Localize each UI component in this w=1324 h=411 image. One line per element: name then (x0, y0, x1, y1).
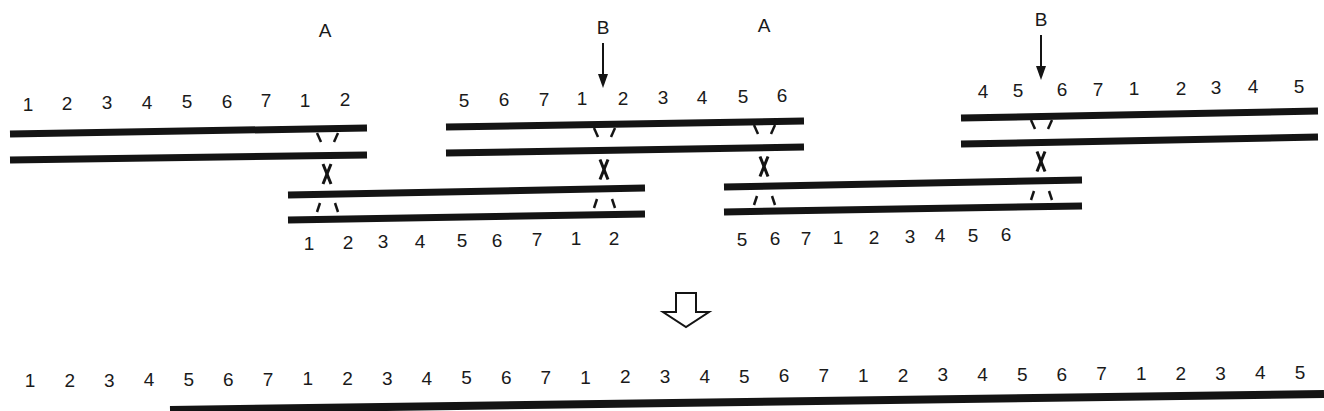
site-labels: ABAB (319, 9, 1048, 41)
strand-line (446, 121, 804, 127)
repeat-unit-label: 2 (1176, 78, 1187, 99)
repeat-unit-label: 3 (658, 87, 669, 108)
repeat-unit-label: 7 (263, 369, 274, 390)
strand-line (961, 137, 1318, 144)
repeat-unit-label: 2 (64, 370, 75, 391)
repeat-unit-label: 1 (25, 370, 36, 391)
repeat-unit-label: 5 (738, 86, 749, 107)
repeat-unit-label: 4 (935, 225, 946, 246)
repeat-unit-label: 1 (580, 367, 591, 388)
repeat-unit-label: 4 (978, 81, 989, 102)
strand-line (724, 180, 1082, 187)
strand-line (288, 214, 645, 220)
chromatid-pair-1: 123456712 (10, 89, 367, 160)
repeat-unit-label: 5 (968, 225, 979, 246)
chromatid-pair-2: 123456712 (288, 188, 645, 254)
repeat-unit-label: 6 (777, 85, 788, 106)
repeat-unit-label: 1 (577, 88, 588, 109)
repeat-unit-label: 2 (618, 88, 629, 109)
repeat-unit-label: 3 (1215, 363, 1226, 384)
repeat-unit-label: 6 (1057, 364, 1068, 385)
repeat-unit-label: 2 (898, 365, 909, 386)
repeat-unit-label: 1 (303, 368, 314, 389)
strand-line (10, 128, 367, 134)
site-label-a2: A (758, 15, 771, 36)
repeat-unit-label: 5 (1013, 80, 1024, 101)
repeat-unit-label: 1 (1136, 363, 1147, 384)
unequal-crossover-diagram: ABAB 12345671212345671256712345656712345… (0, 0, 1324, 411)
repeat-unit-label: 3 (382, 368, 393, 389)
recombinant-strand: 123456712345671234567123456712345 (25, 362, 1324, 410)
chromatid-pairs: 1234567121234567125671234565671234564567… (10, 76, 1318, 254)
repeat-unit-label: 1 (300, 90, 311, 111)
repeat-unit-label: 1 (304, 233, 315, 254)
repeat-unit-label: 7 (1093, 79, 1104, 100)
down-arrow-icon (598, 43, 608, 88)
repeat-unit-label: 2 (62, 93, 73, 114)
repeat-unit-label: 4 (142, 92, 153, 113)
repeat-unit-label: 6 (499, 89, 510, 110)
repeat-unit-label: 7 (541, 367, 552, 388)
repeat-unit-label: 5 (1295, 362, 1306, 383)
crossover-marks (317, 120, 1052, 212)
chromatid-pair-5: 456712345 (961, 76, 1318, 144)
result-arrow-icon (663, 293, 709, 327)
repeat-unit-label: 7 (801, 228, 812, 249)
repeat-unit-label: 5 (182, 91, 193, 112)
site-label-b1: B (597, 17, 610, 38)
repeat-unit-label: 6 (779, 365, 790, 386)
repeat-unit-label: 3 (938, 364, 949, 385)
repeat-unit-label: 1 (858, 365, 869, 386)
strand-line (288, 188, 645, 195)
repeat-unit-label: 3 (378, 231, 389, 252)
repeat-unit-label: 2 (620, 366, 631, 387)
recombinant-strand-line (170, 394, 1324, 410)
repeat-unit-label: 4 (1255, 362, 1266, 383)
repeat-unit-label: 3 (104, 370, 115, 391)
repeat-unit-label: 5 (457, 230, 468, 251)
repeat-unit-label: 5 (737, 229, 748, 250)
repeat-unit-label: 6 (770, 228, 781, 249)
repeat-unit-label: 5 (459, 90, 470, 111)
chromatid-pair-4: 567123456 (724, 180, 1082, 250)
repeat-unit-label: 6 (222, 91, 233, 112)
repeat-unit-label: 7 (1096, 363, 1107, 384)
repeat-unit-label: 4 (144, 369, 155, 390)
repeat-unit-label: 6 (1001, 224, 1012, 245)
repeat-unit-label: 3 (102, 92, 113, 113)
repeat-unit-label: 4 (977, 364, 988, 385)
repeat-unit-label: 1 (833, 227, 844, 248)
repeat-unit-label: 2 (869, 227, 880, 248)
repeat-unit-label: 2 (340, 89, 351, 110)
crossover-x-icon (1031, 120, 1052, 200)
crossover-x-icon (754, 125, 775, 205)
repeat-unit-label: 6 (492, 230, 503, 251)
repeat-unit-label: 6 (223, 369, 234, 390)
repeat-unit-label: 7 (532, 229, 543, 250)
repeat-unit-label: 4 (415, 231, 426, 252)
repeat-unit-label: 2 (343, 232, 354, 253)
repeat-unit-label: 1 (571, 228, 582, 249)
repeat-unit-label: 4 (422, 368, 433, 389)
repeat-unit-label: 6 (501, 367, 512, 388)
strand-line (446, 147, 804, 153)
strand-line (961, 111, 1318, 118)
repeat-unit-label: 4 (697, 87, 708, 108)
repeat-unit-label: 7 (261, 90, 272, 111)
repeat-unit-label: 3 (660, 366, 671, 387)
strand-line (10, 155, 367, 160)
site-label-a1: A (319, 20, 332, 41)
down-arrow-icon (1036, 35, 1046, 80)
repeat-unit-label: 1 (23, 94, 34, 115)
repeat-unit-label: 5 (461, 367, 472, 388)
site-label-b2: B (1035, 9, 1048, 30)
repeat-unit-label: 4 (1248, 76, 1259, 97)
repeat-unit-label: 2 (609, 228, 620, 249)
crossover-x-icon (317, 133, 338, 212)
repeat-unit-label: 2 (1176, 363, 1187, 384)
repeat-unit-label: 6 (1057, 79, 1068, 100)
repeat-unit-label: 5 (1294, 76, 1305, 97)
strand-line (724, 206, 1082, 212)
repeat-unit-label: 3 (1211, 77, 1222, 98)
repeat-unit-label: 4 (699, 366, 710, 387)
